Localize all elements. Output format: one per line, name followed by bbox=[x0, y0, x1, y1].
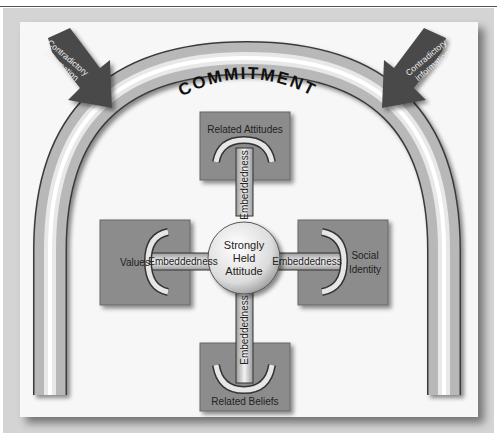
node-label-identity: Identity bbox=[349, 264, 381, 275]
connector-label-right: Embeddedness bbox=[272, 256, 342, 267]
node-label-related-attitudes: Related Attitudes bbox=[207, 124, 283, 135]
center-label-1: Strongly bbox=[224, 239, 265, 251]
connector-label-left: Embeddedness bbox=[148, 256, 218, 267]
node-label-social: Social bbox=[351, 250, 378, 261]
connector-label-bottom: Embeddedness bbox=[239, 295, 250, 365]
connector-label-top: Embeddedness bbox=[239, 150, 250, 220]
node-label-related-beliefs: Related Beliefs bbox=[211, 396, 278, 407]
node-label-values: Values bbox=[120, 257, 150, 268]
commitment-diagram: COMMITMENT Contradictory information Con… bbox=[0, 0, 497, 437]
center-label-2: Held bbox=[233, 252, 256, 264]
center-label-3: Attitude bbox=[225, 265, 262, 277]
